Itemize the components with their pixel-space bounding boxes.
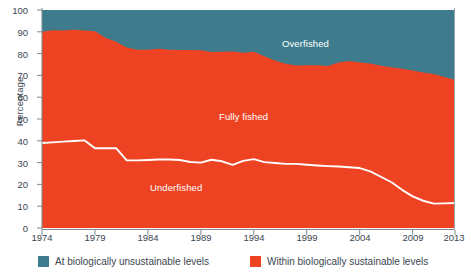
y-tick-60: 60: [0, 93, 28, 103]
y-tick-80: 80: [0, 50, 28, 60]
y-tick-30: 30: [0, 159, 28, 169]
fully-fished-area-label: Fully fished: [219, 111, 268, 122]
x-tick-2013: 2013: [434, 233, 471, 243]
x-tick-1989: 1989: [181, 233, 221, 243]
x-tick-1994: 1994: [234, 233, 274, 243]
legend-label-sustainable: Within biologically sustainable levels: [267, 256, 428, 267]
axis-lines: [35, 8, 471, 244]
x-tick-1974: 1974: [22, 233, 62, 243]
legend-swatch-sustainable: [250, 256, 261, 267]
overfished-area-label: Overfished: [282, 38, 329, 49]
y-tick-40: 40: [0, 137, 28, 147]
x-tick-1984: 1984: [128, 233, 168, 243]
legend-swatch-unsustainable: [38, 256, 49, 267]
y-tick-90: 90: [0, 28, 28, 38]
plot-area: Overfished Fully fished Underfished: [42, 10, 455, 228]
y-tick-10: 10: [0, 202, 28, 212]
underfished-area-label: Underfished: [150, 182, 202, 193]
y-tick-20: 20: [0, 180, 28, 190]
y-tick-50: 50: [0, 115, 28, 125]
x-tick-1979: 1979: [75, 233, 115, 243]
fisheries-stock-status-chart: Percentage 100 90 80 70 60 50 40 30 20 1…: [0, 0, 471, 274]
legend-item-unsustainable[interactable]: At biologically unsustainable levels: [38, 256, 209, 267]
y-tick-100: 100: [0, 6, 28, 16]
legend-label-unsustainable: At biologically unsustainable levels: [55, 256, 209, 267]
x-tick-2004: 2004: [340, 233, 380, 243]
x-tick-1999: 1999: [287, 233, 327, 243]
y-tick-70: 70: [0, 71, 28, 81]
legend-item-sustainable[interactable]: Within biologically sustainable levels: [250, 256, 428, 267]
x-tick-2009: 2009: [393, 233, 433, 243]
